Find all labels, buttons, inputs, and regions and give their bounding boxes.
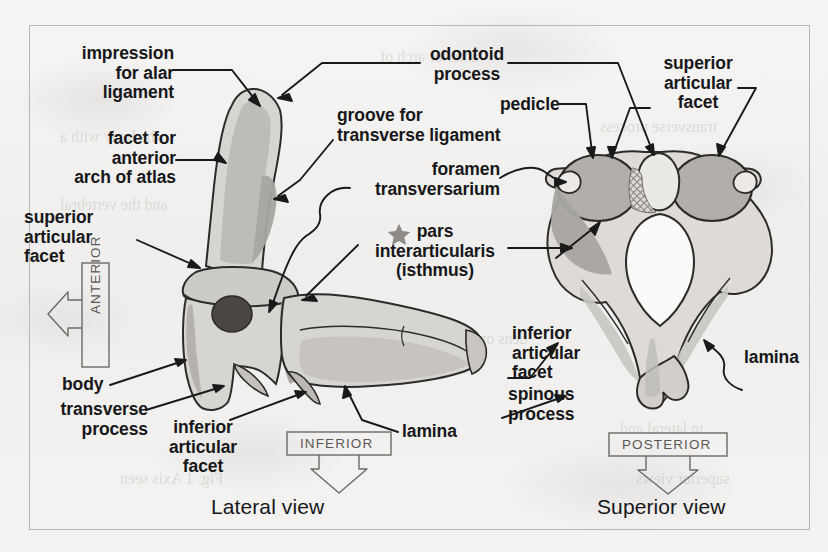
leader-sup-art-facet-left: [137, 240, 196, 266]
label-groove-for-transverse-ligament: groove for transverse ligament: [337, 106, 527, 145]
anterior-direction-marker: ANTERIOR: [46, 262, 112, 368]
label-pars-interarticularis: pars interarticularis (isthmus): [360, 222, 510, 281]
arrowhead-sup-art-facet-left: [188, 260, 200, 268]
arrowhead-odontoid-left: [278, 94, 292, 101]
label-foramen-transversarium: foramen transversarium: [352, 160, 500, 199]
leader-pars-lateral: [306, 245, 358, 296]
leader-lamina-superior: [708, 344, 742, 390]
leader-odontoid-left: [282, 63, 420, 95]
posterior-direction-marker: POSTERIOR: [608, 432, 728, 498]
arrowhead-sup-art-facet-r2: [717, 144, 725, 156]
arrowhead-inf-art-facet-lateral: [295, 391, 306, 398]
label-impression-for-alar-ligament: impression for alar ligament: [48, 44, 174, 103]
label-lamina-lateral: lamina: [402, 422, 482, 442]
foramen-transversarium-right-shape: [733, 171, 756, 193]
posterior-direction-label: POSTERIOR: [622, 437, 711, 452]
label-pedicle: pedicle: [500, 95, 568, 115]
label-lamina-superior: lamina: [744, 348, 816, 368]
inferior-direction-marker: INFERIOR: [286, 431, 392, 497]
caption-superior-view: Superior view: [597, 495, 726, 519]
figure-page: anterior arch of the body with a transve…: [0, 0, 828, 552]
label-inferior-articular-facet-lateral: inferior articular facet: [160, 418, 246, 477]
label-odontoid-process: odontoid process: [424, 45, 510, 84]
leader-groove-transverse: [278, 140, 333, 196]
leader-inf-art-facet-lateral: [230, 394, 300, 420]
arrowhead-lamina-superior: [704, 340, 714, 351]
label-superior-articular-facet-superior: superior articular facet: [648, 54, 748, 113]
label-inferior-articular-facet-superior: inferior articular facet: [512, 324, 604, 383]
caption-lateral-view: Lateral view: [211, 495, 324, 519]
label-superior-articular-facet-lateral: superior articular facet: [24, 208, 144, 267]
anterior-direction-label: ANTERIOR: [88, 235, 103, 314]
label-transverse-process: transverse process: [44, 400, 148, 439]
inferior-direction-label: INFERIOR: [300, 436, 373, 451]
label-facet-for-anterior-arch-of-atlas: facet for anterior arch of atlas: [42, 129, 176, 188]
leader-lamina-lateral: [348, 392, 398, 432]
foramen-transversarium-hole: [212, 296, 252, 332]
label-body: body: [62, 375, 122, 395]
label-spinous-process: spinous process: [508, 385, 594, 424]
star-icon: [386, 222, 412, 252]
